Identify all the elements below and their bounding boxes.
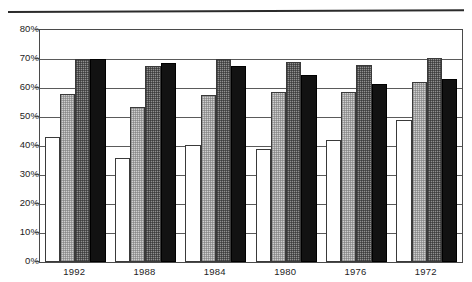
bar-group	[45, 30, 106, 262]
bar	[341, 92, 356, 262]
bar-group	[185, 30, 246, 262]
y-axis-tick-label: 40%	[5, 140, 39, 150]
x-axis: 199219881984198019761972	[39, 263, 463, 282]
x-axis-tick-label: 1980	[250, 267, 320, 277]
bar	[356, 65, 371, 262]
bar	[396, 120, 411, 262]
y-axis-tick-label: 30%	[5, 169, 39, 179]
bar	[442, 79, 457, 262]
bar	[45, 137, 60, 262]
plot-area	[39, 29, 463, 263]
bar	[286, 62, 301, 262]
x-axis-tick-label: 1972	[391, 267, 461, 277]
bar	[115, 158, 130, 262]
bar	[271, 92, 286, 262]
chart-figure: 0%10%20%30%40%50%60%70%80% 1992198819841…	[0, 0, 472, 282]
bar	[412, 82, 427, 262]
bar	[216, 59, 231, 262]
y-axis-tick-label: 80%	[5, 24, 39, 34]
bar-group	[115, 30, 176, 262]
bar	[427, 58, 442, 262]
bar	[326, 140, 341, 262]
bar-group	[326, 30, 387, 262]
bar	[301, 75, 316, 262]
x-axis-tick-label: 1984	[180, 267, 250, 277]
x-axis-tick-label: 1976	[320, 267, 390, 277]
y-axis-tick-label: 10%	[5, 227, 39, 237]
bar-group	[396, 30, 457, 262]
top-horizontal-rule	[8, 9, 464, 13]
bar	[185, 145, 200, 262]
bar	[161, 63, 176, 262]
bar	[372, 84, 387, 262]
bar	[75, 59, 90, 262]
x-axis-tick-label: 1992	[39, 267, 109, 277]
bar	[90, 59, 105, 262]
bar	[201, 95, 216, 262]
bar-group	[256, 30, 317, 262]
bar	[130, 107, 145, 262]
bar	[60, 94, 75, 262]
y-axis-tick-label: 70%	[5, 53, 39, 63]
y-axis-tick-label: 0%	[5, 256, 39, 266]
x-axis-tick-label: 1988	[109, 267, 179, 277]
y-axis-tick-label: 60%	[5, 82, 39, 92]
y-axis-tick-label: 20%	[5, 198, 39, 208]
bar	[145, 66, 160, 262]
bar	[256, 149, 271, 262]
bar	[231, 66, 246, 262]
y-axis-tick-label: 50%	[5, 111, 39, 121]
y-axis: 0%10%20%30%40%50%60%70%80%	[0, 29, 39, 263]
